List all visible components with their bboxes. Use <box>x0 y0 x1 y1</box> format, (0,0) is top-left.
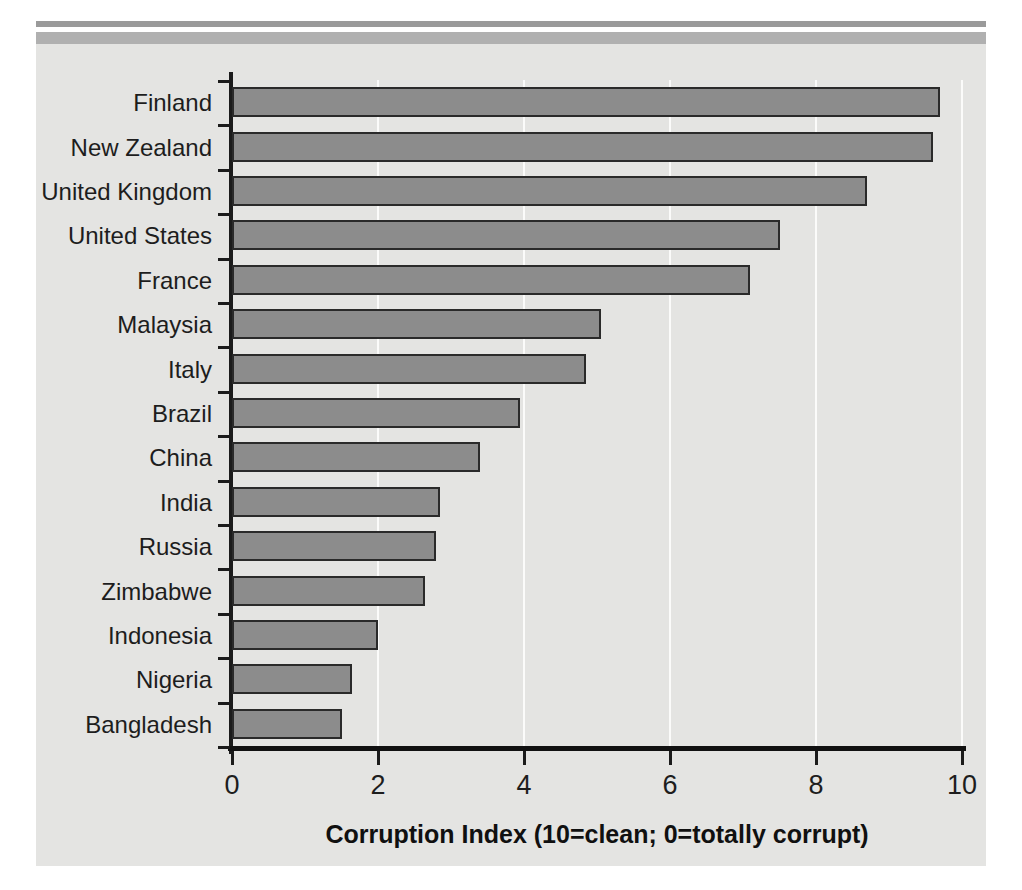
bar-row: Nigeria <box>232 664 962 694</box>
bar-row: Zimbabwe <box>232 576 962 606</box>
x-axis-tick-6 <box>669 751 672 765</box>
bar-india <box>232 487 440 517</box>
y-axis-tick <box>218 524 230 527</box>
x-axis-tick-10 <box>961 751 964 765</box>
x-axis-tick-label-0: 0 <box>224 770 239 801</box>
y-axis-label-malaysia: Malaysia <box>117 310 212 340</box>
y-axis-tick <box>218 435 230 438</box>
bar-russia <box>232 531 436 561</box>
x-axis-tick-label-4: 4 <box>516 770 531 801</box>
y-axis-tick <box>218 613 230 616</box>
y-axis-label-russia: Russia <box>139 532 212 562</box>
bar-indonesia <box>232 620 378 650</box>
bar-row: New Zealand <box>232 132 962 162</box>
bar-new-zealand <box>232 132 933 162</box>
y-axis-label-brazil: Brazil <box>152 399 212 429</box>
y-axis-tick <box>218 657 230 660</box>
bar-row: Indonesia <box>232 620 962 650</box>
y-axis-tick <box>218 746 230 749</box>
y-axis-tick <box>218 480 230 483</box>
y-axis-tick <box>218 80 230 83</box>
y-axis-label-france: France <box>137 266 212 296</box>
bar-row: Brazil <box>232 398 962 428</box>
x-axis-tick-4 <box>523 751 526 765</box>
y-axis-label-zimbabwe: Zimbabwe <box>101 577 212 607</box>
y-axis-tick <box>218 124 230 127</box>
bar-row: Finland <box>232 87 962 117</box>
bar-italy <box>232 354 586 384</box>
x-axis-tick-label-2: 2 <box>370 770 385 801</box>
x-axis-tick-label-6: 6 <box>662 770 677 801</box>
x-axis-tick-8 <box>815 751 818 765</box>
y-axis-label-indonesia: Indonesia <box>108 621 212 651</box>
y-axis-label-finland: Finland <box>133 88 212 118</box>
chart-figure: FinlandNew ZealandUnited KingdomUnited S… <box>36 44 986 866</box>
bar-china <box>232 442 480 472</box>
x-axis-tick-2 <box>377 751 380 765</box>
bar-row: United States <box>232 220 962 250</box>
x-axis-tick-0 <box>231 751 234 765</box>
y-axis-tick <box>218 213 230 216</box>
figure-page: FinlandNew ZealandUnited KingdomUnited S… <box>0 0 1022 890</box>
y-axis-tick <box>218 702 230 705</box>
plot-area: FinlandNew ZealandUnited KingdomUnited S… <box>232 80 962 746</box>
y-axis-label-india: India <box>160 488 212 518</box>
x-axis-title: Corruption Index (10=clean; 0=totally co… <box>232 820 962 849</box>
y-axis-tick <box>218 391 230 394</box>
bar-row: Bangladesh <box>232 709 962 739</box>
y-axis-label-nigeria: Nigeria <box>136 665 212 695</box>
y-axis-label-italy: Italy <box>168 355 212 385</box>
y-axis-tick <box>218 258 230 261</box>
x-axis-line <box>228 746 966 751</box>
y-axis-label-china: China <box>149 443 212 473</box>
bar-row: Malaysia <box>232 309 962 339</box>
bar-nigeria <box>232 664 352 694</box>
y-axis-tick <box>218 169 230 172</box>
bar-united-states <box>232 220 780 250</box>
bar-row: Italy <box>232 354 962 384</box>
bar-united-kingdom <box>232 176 867 206</box>
top-light-rule <box>36 32 986 44</box>
bar-france <box>232 265 750 295</box>
bar-row: Russia <box>232 531 962 561</box>
bar-row: China <box>232 442 962 472</box>
bar-zimbabwe <box>232 576 425 606</box>
x-axis-tick-label-8: 8 <box>808 770 823 801</box>
x-axis-tick-label-10: 10 <box>947 770 977 801</box>
y-axis-tick <box>218 302 230 305</box>
bar-row: France <box>232 265 962 295</box>
bar-finland <box>232 87 940 117</box>
y-axis-tick <box>218 568 230 571</box>
bar-brazil <box>232 398 520 428</box>
y-axis-tick <box>218 346 230 349</box>
y-axis-label-new-zealand: New Zealand <box>71 133 212 163</box>
bar-malaysia <box>232 309 601 339</box>
top-dark-rule <box>36 21 986 27</box>
bar-row: India <box>232 487 962 517</box>
y-axis-label-bangladesh: Bangladesh <box>85 710 212 740</box>
y-axis-label-united-states: United States <box>68 221 212 251</box>
y-axis-label-united-kingdom: United Kingdom <box>41 177 212 207</box>
bar-row: United Kingdom <box>232 176 962 206</box>
bar-bangladesh <box>232 709 342 739</box>
